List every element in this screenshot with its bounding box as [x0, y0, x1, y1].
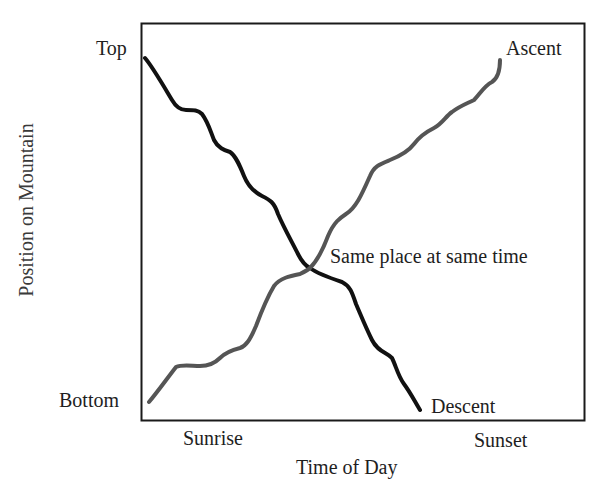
x-tick-sunrise: Sunrise: [183, 428, 243, 448]
crossing-annotation: Same place at same time: [330, 246, 528, 266]
y-tick-top: Top: [96, 38, 127, 58]
y-tick-bottom: Bottom: [59, 390, 119, 410]
ascent-label: Ascent: [506, 38, 562, 58]
y-axis-title: Position on Mountain: [15, 123, 38, 296]
descent-line: [145, 58, 420, 410]
plot-frame: [142, 24, 585, 421]
descent-label: Descent: [431, 396, 495, 416]
x-axis-title: Time of Day: [296, 457, 397, 477]
x-tick-sunset: Sunset: [474, 430, 527, 450]
